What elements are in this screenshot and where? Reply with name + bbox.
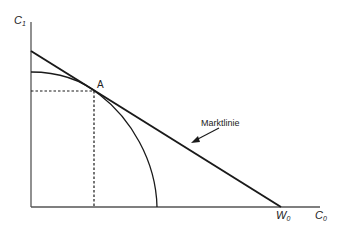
market-line-label: Marktlinie bbox=[201, 118, 240, 128]
arrow-head-icon bbox=[191, 136, 200, 143]
market-line bbox=[31, 51, 281, 207]
market-line-arrow bbox=[196, 128, 219, 140]
point-a-label: A bbox=[97, 79, 104, 90]
y-axis-label: C1 bbox=[14, 14, 26, 27]
x-axis-label: C0 bbox=[315, 209, 327, 222]
diagram-canvas: C1 C0 W0 A Marktlinie bbox=[0, 0, 344, 231]
w0-label: W0 bbox=[276, 209, 290, 222]
